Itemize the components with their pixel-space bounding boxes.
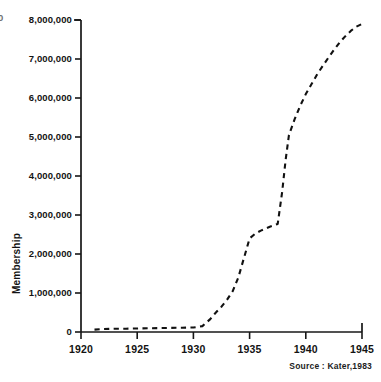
y-tick-label: 7,000,000 (29, 53, 72, 64)
x-tick-label: 1935 (228, 343, 272, 355)
y-tick-label: 1,000,000 (29, 287, 72, 298)
data-series-group (94, 24, 362, 330)
x-tick-label: 1930 (171, 343, 215, 355)
x-tick-label: 1920 (59, 343, 103, 355)
x-tick-label: 1940 (284, 343, 328, 355)
y-tick-label: 4,000,000 (29, 170, 72, 181)
chart-figure: 0 01,000,0002,000,0003,000,0004,000,0005… (0, 0, 381, 382)
x-tick-label: 1925 (115, 343, 159, 355)
y-tick-label: 2,000,000 (29, 248, 72, 259)
x-axis-ticks (81, 332, 362, 339)
y-tick-label: 6,000,000 (29, 92, 72, 103)
y-tick-label: 8,000,000 (29, 14, 72, 25)
y-axis-ticks (75, 20, 81, 332)
y-tick-label: 0 (67, 326, 72, 337)
x-tick-label: 1945 (340, 343, 381, 355)
y-axis-title: Membership (11, 221, 22, 307)
data-line-membership (94, 24, 362, 330)
axes (74, 20, 362, 332)
y-tick-label: 5,000,000 (29, 131, 72, 142)
y-tick-label: 3,000,000 (29, 209, 72, 220)
source-note: Source : Kater,1983 (289, 361, 372, 371)
